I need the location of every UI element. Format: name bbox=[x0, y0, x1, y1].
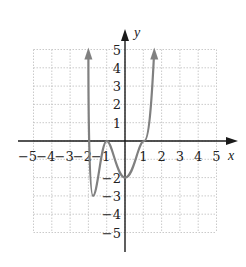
y-tick-label: 2 bbox=[113, 97, 121, 112]
y-tick-label: 4 bbox=[113, 61, 121, 76]
x-tick-label: −5 bbox=[18, 149, 37, 164]
y-tick-label: −4 bbox=[102, 207, 121, 222]
x-tick-label: 5 bbox=[212, 149, 220, 164]
y-tick-label: 3 bbox=[113, 79, 121, 94]
x-tick-label: −4 bbox=[36, 149, 55, 164]
x-tick-label: 2 bbox=[157, 149, 165, 164]
coordinate-plane: −5−4−3−2−11234554321−2−3−4−5 x y bbox=[0, 0, 246, 267]
x-tick-label: 1 bbox=[139, 149, 147, 164]
x-axis-label: x bbox=[227, 148, 235, 163]
graph-figure: −5−4−3−2−11234554321−2−3−4−5 x y bbox=[0, 0, 246, 267]
axes bbox=[18, 29, 238, 252]
y-axis-label: y bbox=[132, 25, 141, 40]
y-tick-label: 1 bbox=[113, 116, 121, 131]
y-tick-label: −2 bbox=[102, 171, 121, 186]
x-tick-label: 4 bbox=[194, 149, 202, 164]
y-tick-label: 5 bbox=[113, 43, 121, 58]
x-tick-label: −3 bbox=[55, 149, 74, 164]
x-tick-label: 3 bbox=[176, 149, 184, 164]
y-tick-label: −5 bbox=[102, 226, 121, 241]
y-axis-arrow-icon bbox=[121, 29, 129, 41]
y-tick-label: −3 bbox=[102, 189, 121, 204]
x-axis-arrow-icon bbox=[226, 137, 238, 145]
function-curve bbox=[88, 57, 154, 196]
